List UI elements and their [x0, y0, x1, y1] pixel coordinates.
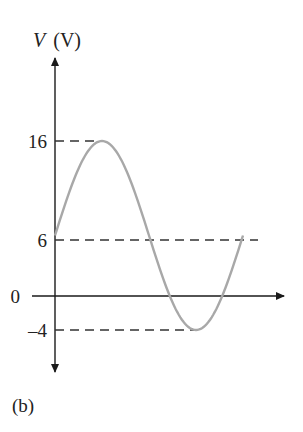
sine-waveform	[55, 141, 243, 330]
ytick-6: 6	[38, 230, 48, 251]
waveform-chart: 16 6 0 –4 V (V) (b)	[0, 0, 303, 432]
y-axis-label-unit: (V)	[53, 29, 81, 52]
y-axis-label: V (V)	[33, 29, 81, 52]
panel-label: (b)	[12, 395, 34, 417]
ytick-neg4: –4	[27, 320, 48, 341]
ytick-16: 16	[28, 131, 47, 152]
y-axis-label-var: V	[33, 29, 48, 51]
ytick-0: 0	[11, 286, 21, 307]
